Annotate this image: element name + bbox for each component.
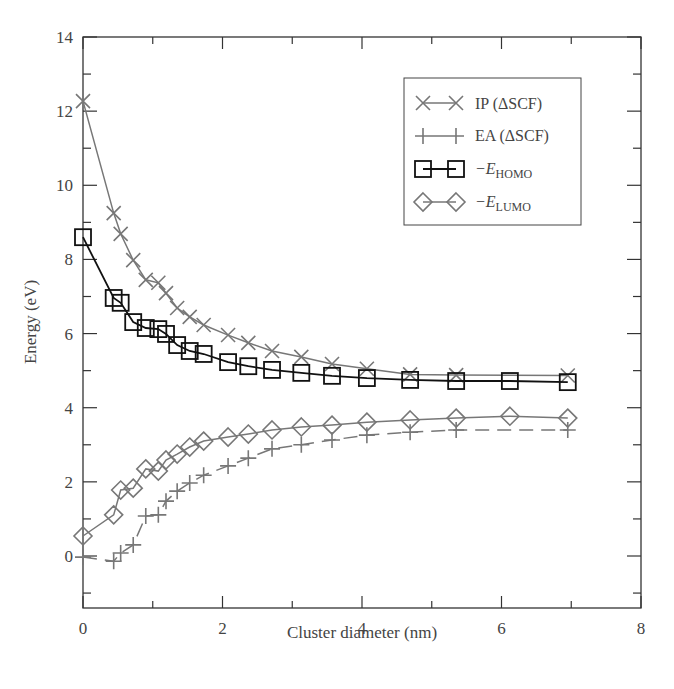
x-tick-label: 8 [637, 619, 646, 638]
x-marker-icon [197, 318, 211, 332]
x-marker-icon [241, 336, 255, 350]
series-3 [74, 407, 577, 545]
x-marker-icon [114, 227, 128, 241]
x-tick-label: 0 [79, 619, 88, 638]
x-axis-label: Cluster diameter (nm) [287, 623, 437, 642]
plus-marker-icon [359, 427, 375, 443]
legend-label-ip: IP (ΔSCF) [475, 95, 542, 113]
x-tick-label: 2 [218, 619, 227, 638]
plus-marker-icon [196, 467, 212, 483]
x-marker-icon [159, 286, 173, 300]
legend: IP (ΔSCF) EA (ΔSCF) −EHOMO −ELUMO [404, 78, 581, 225]
plus-marker-icon [182, 475, 198, 491]
y-tick-label: 8 [65, 250, 74, 269]
x-marker-icon [221, 328, 235, 342]
plus-marker-icon [240, 450, 256, 466]
plus-marker-icon [75, 549, 91, 565]
series-1 [75, 422, 576, 569]
x-marker-icon [294, 350, 308, 364]
series-line [83, 416, 568, 536]
y-tick-label: 2 [65, 473, 74, 492]
series-line [83, 430, 568, 561]
plus-marker-icon [560, 422, 576, 438]
y-tick-label: 4 [65, 399, 74, 418]
x-marker-icon [107, 206, 121, 220]
x-marker-icon [126, 253, 140, 267]
y-tick-label: 14 [56, 28, 74, 47]
x-marker-icon [170, 301, 184, 315]
plus-marker-icon [106, 553, 122, 569]
x-marker-icon [151, 276, 165, 290]
y-tick-label: 10 [56, 176, 73, 195]
plus-marker-icon [138, 508, 154, 524]
legend-lumo-prefix: −E [475, 193, 496, 210]
series-line [83, 237, 568, 382]
plus-marker-icon [402, 424, 418, 440]
y-axis-label: Energy (eV) [21, 280, 40, 364]
legend-label-ea: EA (ΔSCF) [475, 127, 549, 145]
legend-homo-prefix: −E [475, 160, 496, 177]
plus-marker-icon [293, 437, 309, 453]
x-tick-label: 6 [497, 619, 506, 638]
legend-lumo-sub: LUMO [496, 200, 532, 214]
plus-marker-icon [158, 493, 174, 509]
x-marker-icon [183, 310, 197, 324]
x-marker-icon [265, 344, 279, 358]
y-tick-label: 6 [65, 325, 74, 344]
plus-marker-icon [264, 441, 280, 457]
plus-marker-icon [220, 458, 236, 474]
plus-marker-icon [150, 507, 166, 523]
y-tick-label: 12 [56, 102, 73, 121]
x-marker-icon [139, 273, 153, 287]
legend-homo-sub: HOMO [496, 167, 533, 181]
chart: 0246802468101214 Cluster diameter (nm) E… [0, 0, 674, 689]
y-tick-label: 0 [65, 547, 74, 566]
series-2 [75, 229, 576, 390]
plus-marker-icon [448, 422, 464, 438]
plus-marker-icon [125, 537, 141, 553]
